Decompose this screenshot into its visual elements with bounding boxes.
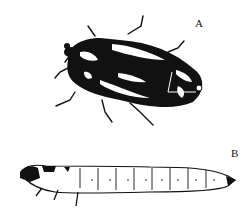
beetle-drawing — [55, 16, 202, 125]
figure-drawing — [0, 0, 250, 221]
panel-label-b: B — [231, 147, 238, 159]
larva-drawing — [20, 165, 236, 206]
illustration-figure: A B — [0, 0, 250, 221]
panel-label-a: A — [195, 17, 203, 29]
